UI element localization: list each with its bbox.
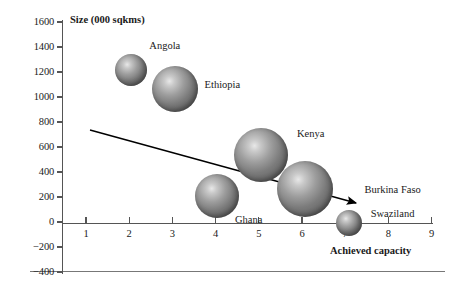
y-tick-mark: [57, 96, 63, 97]
bottom-rule: [30, 271, 445, 272]
y-tick-mark: [57, 46, 63, 47]
bubble-label-burkina-faso: Burkina Faso: [364, 184, 420, 195]
y-tick-mark: [57, 221, 63, 222]
bubble-label-ethiopia: Ethiopia: [205, 79, 241, 90]
bubble-label-ghana: Ghana: [235, 214, 262, 225]
y-tick-mark: [57, 121, 63, 122]
bubble-label-angola: Angola: [149, 40, 180, 51]
y-tick-label: 1600: [20, 17, 54, 28]
y-tick-label: 800: [20, 117, 54, 128]
bubble-ethiopia: [152, 66, 198, 112]
y-tick-label: 1000: [20, 92, 54, 103]
bubble-swaziland: [336, 210, 362, 236]
x-tick-label: 2: [119, 228, 139, 239]
y-tick-mark: [57, 71, 63, 72]
bubble-label-swaziland: Swaziland: [371, 208, 415, 219]
y-tick-mark: [57, 146, 63, 147]
x-tick-label: 8: [378, 228, 398, 239]
x-tick-mark: [431, 217, 432, 223]
bubble-kenya: [234, 128, 288, 182]
y-tick-mark: [57, 246, 63, 247]
bubble-angola: [115, 54, 147, 86]
y-axis-title: Size (000 sqkms): [70, 14, 145, 25]
x-tick-label: 4: [206, 228, 226, 239]
y-tick-label: −200: [20, 242, 54, 253]
x-tick-mark: [301, 217, 302, 223]
bubble-ghana: [195, 174, 239, 218]
x-tick-label: 6: [292, 228, 312, 239]
y-tick-label: 200: [20, 192, 54, 203]
y-tick-label: 0: [20, 217, 54, 228]
x-tick-label: 9: [422, 228, 442, 239]
bubble-burkina-faso: [277, 161, 333, 217]
y-tick-label: 1200: [20, 67, 54, 78]
x-tick-label: 3: [162, 228, 182, 239]
x-tick-label: 1: [76, 228, 96, 239]
y-tick-label: 400: [20, 167, 54, 178]
y-tick-label: 1400: [20, 42, 54, 53]
bubble-chart: Size (000 sqkms) Achieved capacity 16001…: [0, 0, 458, 298]
bubble-label-kenya: Kenya: [297, 128, 324, 139]
y-tick-mark: [57, 21, 63, 22]
x-axis-title: Achieved capacity: [330, 245, 411, 256]
x-tick-label: 5: [249, 228, 269, 239]
x-tick-mark: [172, 217, 173, 223]
y-tick-mark: [57, 171, 63, 172]
y-tick-mark: [57, 196, 63, 197]
y-tick-label: −400: [20, 267, 54, 278]
y-tick-label: 600: [20, 142, 54, 153]
x-tick-mark: [85, 217, 86, 223]
y-tick-mark: [57, 271, 63, 272]
x-tick-mark: [129, 217, 130, 223]
